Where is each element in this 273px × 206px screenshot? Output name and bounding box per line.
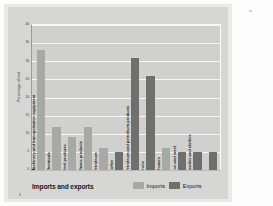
category-label: Iron and steel — [172, 146, 176, 170]
y-axis-tick-label: 20 — [25, 96, 29, 99]
y-axis-tick-label: 35 — [25, 41, 29, 44]
gridline — [32, 98, 220, 99]
scan-artifact-speck — [19, 193, 21, 196]
category-label: Coffee — [110, 160, 114, 170]
legend-label: Imports — [147, 183, 166, 189]
y-axis-tick-label: 30 — [25, 60, 29, 63]
legend-swatch — [133, 182, 144, 189]
bar — [115, 152, 123, 170]
plot-area: Machinery and transportation equipmentCh… — [32, 25, 220, 170]
y-axis-tick-column: 4035302520151050 — [20, 25, 29, 170]
category-label: Fruits — [141, 161, 145, 170]
y-axis-tick-label: 25 — [25, 78, 29, 81]
bar — [162, 148, 170, 170]
legend-swatch — [169, 182, 180, 189]
gridline — [32, 25, 220, 26]
legend-label: Exports — [183, 183, 202, 189]
category-label: Steel products — [63, 144, 67, 170]
bar — [84, 127, 92, 171]
legend-item: Exports — [169, 182, 201, 189]
category-label: Machinery and transportation equipment — [32, 95, 36, 170]
gridline — [32, 61, 220, 62]
page-sheet: Percentage of total 4035302520151050 Mac… — [0, 0, 273, 206]
category-label: Flowers — [157, 157, 161, 170]
legend-item: Imports — [133, 182, 165, 189]
bar — [209, 152, 217, 170]
chart-legend: ImportsExports — [133, 182, 202, 189]
category-label: Plastic products — [78, 141, 82, 170]
plot-frame-right — [220, 24, 221, 171]
y-axis-tick-label: 10 — [25, 132, 29, 135]
gridline — [32, 43, 220, 44]
y-axis-tick-label: 40 — [25, 23, 29, 26]
category-label: Chemicals — [47, 152, 51, 170]
x-axis-line — [32, 170, 221, 171]
y-axis-tick-label: 5 — [27, 150, 29, 153]
bar — [99, 148, 107, 170]
bar — [131, 58, 139, 170]
bar — [37, 50, 45, 170]
bar — [52, 127, 60, 171]
page-corner-mark — [249, 10, 252, 12]
category-label: Textiles and clothes — [188, 134, 192, 170]
bar — [146, 76, 154, 170]
chart-panel: Percentage of total 4035302520151050 Mac… — [8, 7, 228, 199]
bar — [193, 152, 201, 170]
gridline — [32, 79, 220, 80]
category-label: Petroleum and petroleum products — [125, 106, 129, 170]
category-label: Petroleum — [94, 153, 98, 170]
y-axis-tick-label: 15 — [25, 114, 29, 117]
bar — [178, 152, 186, 170]
bar — [68, 137, 76, 170]
y-axis-tick-label: 0 — [27, 168, 29, 171]
chart-title: Imports and exports — [32, 183, 94, 190]
